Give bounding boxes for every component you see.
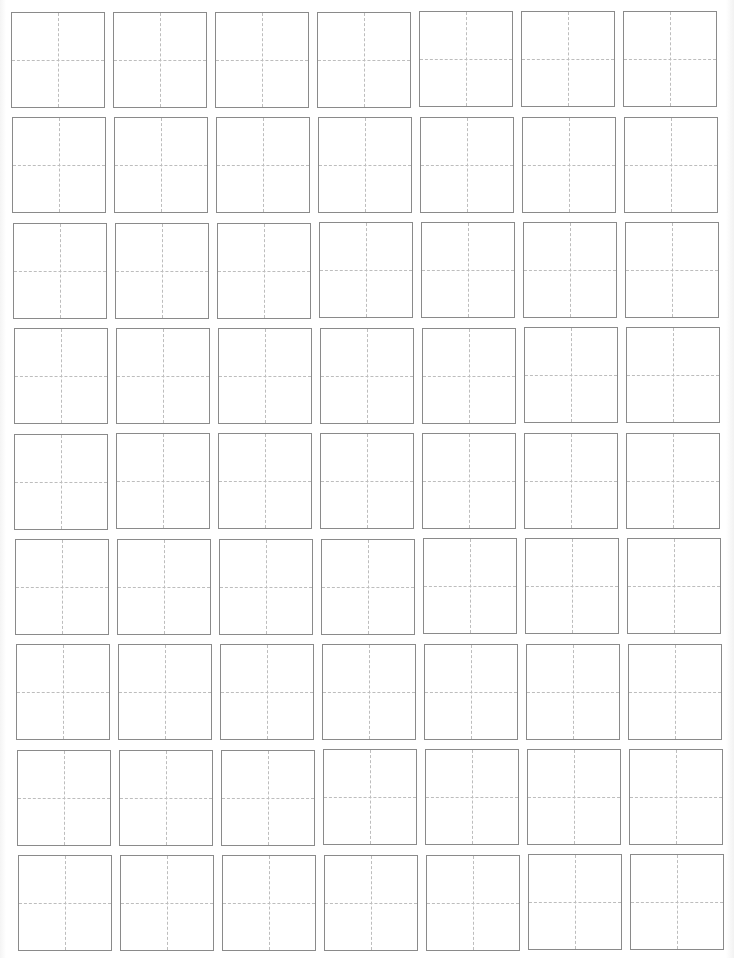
horizontal-guide-line (216, 60, 308, 61)
horizontal-guide-line (221, 692, 313, 693)
scan-edge-shadow-left (0, 0, 6, 958)
horizontal-guide-line (528, 797, 620, 798)
grid-cell (113, 12, 207, 108)
grid-cell (14, 328, 108, 424)
horizontal-guide-line (627, 375, 719, 376)
horizontal-guide-line (12, 60, 104, 61)
grid-cell (222, 855, 316, 951)
grid-cell (425, 749, 519, 845)
horizontal-guide-line (423, 481, 515, 482)
grid-cell (624, 117, 718, 213)
grid-cell (528, 854, 622, 950)
grid-cell (116, 433, 210, 529)
horizontal-guide-line (322, 587, 414, 588)
horizontal-guide-line (15, 482, 107, 483)
grid-cell (628, 644, 722, 740)
horizontal-guide-line (427, 903, 519, 904)
horizontal-guide-line (19, 903, 111, 904)
grid-cell (119, 750, 213, 846)
horizontal-guide-line (319, 165, 411, 166)
horizontal-guide-line (525, 375, 617, 376)
grid-cell (422, 433, 516, 529)
horizontal-guide-line (14, 271, 106, 272)
horizontal-guide-line (18, 798, 110, 799)
horizontal-guide-line (218, 271, 310, 272)
grid-cell (14, 434, 108, 530)
grid-cell (13, 223, 107, 319)
scan-edge-shadow-right (726, 0, 734, 958)
grid-cell (321, 539, 415, 635)
horizontal-guide-line (424, 586, 516, 587)
grid-cell (16, 644, 110, 740)
grid-cell (17, 750, 111, 846)
grid-cell (221, 750, 315, 846)
grid-cell (324, 855, 418, 951)
horizontal-guide-line (118, 587, 210, 588)
horizontal-guide-line (321, 376, 413, 377)
grid-cell (525, 538, 619, 634)
grid-cell (423, 538, 517, 634)
horizontal-guide-line (522, 59, 614, 60)
grid-cell (523, 222, 617, 318)
grid-cell (421, 222, 515, 318)
grid-cell (215, 12, 309, 108)
grid-cell (527, 749, 621, 845)
horizontal-guide-line (425, 692, 517, 693)
grid-cell (317, 12, 411, 108)
grid-cell (629, 749, 723, 845)
grid-cell (522, 117, 616, 213)
grid-cell (521, 11, 615, 107)
grid-cell (217, 223, 311, 319)
horizontal-guide-line (223, 903, 315, 904)
horizontal-guide-line (525, 481, 617, 482)
grid-cell (318, 117, 412, 213)
horizontal-guide-line (421, 165, 513, 166)
grid-cell (422, 328, 516, 424)
horizontal-guide-line (120, 798, 212, 799)
horizontal-guide-line (324, 797, 416, 798)
horizontal-guide-line (527, 692, 619, 693)
grid-cell (218, 328, 312, 424)
horizontal-guide-line (423, 376, 515, 377)
horizontal-guide-line (321, 481, 413, 482)
horizontal-guide-line (526, 586, 618, 587)
grid-cell (220, 644, 314, 740)
grid-cell (15, 539, 109, 635)
horizontal-guide-line (16, 587, 108, 588)
grid-cell (320, 328, 414, 424)
horizontal-guide-line (626, 270, 718, 271)
grid-cell (218, 433, 312, 529)
grid-cell (420, 117, 514, 213)
horizontal-guide-line (630, 797, 722, 798)
horizontal-guide-line (117, 376, 209, 377)
horizontal-guide-line (220, 587, 312, 588)
grid-cell (626, 433, 720, 529)
grid-cell (118, 644, 212, 740)
grid-cell (11, 12, 105, 108)
practice-grid-sheet (0, 0, 734, 958)
grid-cell (319, 222, 413, 318)
grid-cell (120, 855, 214, 951)
horizontal-guide-line (628, 586, 720, 587)
grid-cell (219, 539, 313, 635)
horizontal-guide-line (219, 481, 311, 482)
horizontal-guide-line (624, 59, 716, 60)
horizontal-guide-line (121, 903, 213, 904)
grid-cell (625, 222, 719, 318)
horizontal-guide-line (426, 797, 518, 798)
grid-cell (524, 433, 618, 529)
grid-cell (626, 327, 720, 423)
grid-cell (627, 538, 721, 634)
grid-cell (116, 328, 210, 424)
horizontal-guide-line (627, 481, 719, 482)
grid-cell (216, 117, 310, 213)
horizontal-guide-line (631, 902, 723, 903)
grid-cell (323, 749, 417, 845)
horizontal-guide-line (119, 692, 211, 693)
grid-cell (526, 644, 620, 740)
horizontal-guide-line (529, 902, 621, 903)
horizontal-guide-line (117, 481, 209, 482)
grid-cell (630, 854, 724, 950)
horizontal-guide-line (323, 692, 415, 693)
horizontal-guide-line (222, 798, 314, 799)
